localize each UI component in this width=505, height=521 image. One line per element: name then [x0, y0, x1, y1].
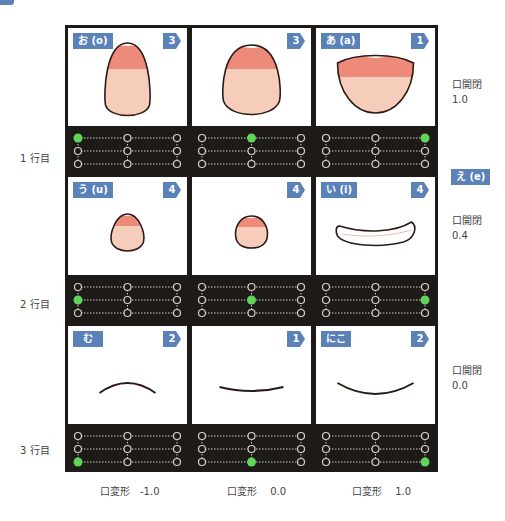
control-point[interactable] — [124, 135, 131, 142]
control-point[interactable] — [372, 310, 379, 317]
control-point[interactable] — [199, 459, 206, 466]
control-point[interactable] — [298, 433, 305, 440]
control-point[interactable] — [199, 148, 206, 155]
control-point[interactable] — [298, 310, 305, 317]
control-point[interactable] — [323, 284, 330, 291]
control-point[interactable] — [372, 161, 379, 168]
control-point[interactable] — [174, 161, 181, 168]
control-point[interactable] — [124, 459, 131, 466]
step-number-tag: 4 — [163, 182, 181, 198]
parameter-pad[interactable] — [316, 427, 435, 471]
control-point-active[interactable] — [74, 134, 83, 143]
control-point[interactable] — [174, 297, 181, 304]
control-strip-r3c2[interactable] — [192, 427, 311, 471]
control-point[interactable] — [248, 148, 255, 155]
control-point[interactable] — [199, 284, 206, 291]
control-point[interactable] — [124, 297, 131, 304]
control-point-active[interactable] — [421, 458, 430, 467]
control-point[interactable] — [323, 297, 330, 304]
control-point[interactable] — [372, 433, 379, 440]
control-point[interactable] — [298, 459, 305, 466]
parameter-pad[interactable] — [68, 129, 187, 173]
control-point[interactable] — [124, 148, 131, 155]
control-point[interactable] — [75, 433, 82, 440]
control-point[interactable] — [372, 148, 379, 155]
control-point[interactable] — [174, 433, 181, 440]
control-point[interactable] — [124, 284, 131, 291]
control-point[interactable] — [124, 446, 131, 453]
control-point[interactable] — [323, 446, 330, 453]
control-point[interactable] — [323, 161, 330, 168]
control-point[interactable] — [174, 284, 181, 291]
control-point[interactable] — [422, 433, 429, 440]
control-point[interactable] — [248, 161, 255, 168]
parameter-pad[interactable] — [316, 129, 435, 173]
parameter-pad[interactable] — [316, 278, 435, 322]
control-strip-r1c2[interactable] — [192, 129, 311, 173]
control-point[interactable] — [323, 310, 330, 317]
control-strip-r3c3[interactable] — [316, 427, 435, 471]
control-point[interactable] — [372, 459, 379, 466]
control-strip-r2c2[interactable] — [192, 278, 311, 322]
control-point[interactable] — [422, 161, 429, 168]
control-point[interactable] — [174, 446, 181, 453]
control-point[interactable] — [422, 446, 429, 453]
control-point[interactable] — [372, 135, 379, 142]
control-strip-r3c1[interactable] — [68, 427, 187, 471]
parameter-pad[interactable] — [192, 278, 311, 322]
control-point-active[interactable] — [74, 296, 83, 305]
control-point[interactable] — [298, 446, 305, 453]
control-point[interactable] — [199, 161, 206, 168]
control-point[interactable] — [372, 284, 379, 291]
parameter-pad[interactable] — [192, 427, 311, 471]
control-point[interactable] — [124, 161, 131, 168]
control-point[interactable] — [199, 433, 206, 440]
parameter-pad[interactable] — [68, 427, 187, 471]
control-point[interactable] — [124, 310, 131, 317]
parameter-pad[interactable] — [68, 278, 187, 322]
control-point[interactable] — [174, 310, 181, 317]
control-point[interactable] — [248, 284, 255, 291]
control-point[interactable] — [248, 446, 255, 453]
control-point[interactable] — [174, 135, 181, 142]
control-point[interactable] — [422, 310, 429, 317]
control-point-active[interactable] — [247, 458, 256, 467]
control-point[interactable] — [248, 433, 255, 440]
control-point[interactable] — [75, 310, 82, 317]
control-point[interactable] — [298, 135, 305, 142]
control-point[interactable] — [323, 459, 330, 466]
control-point[interactable] — [298, 284, 305, 291]
control-point[interactable] — [199, 310, 206, 317]
control-point[interactable] — [422, 148, 429, 155]
control-point[interactable] — [75, 284, 82, 291]
control-point[interactable] — [298, 297, 305, 304]
control-point[interactable] — [422, 284, 429, 291]
control-point[interactable] — [174, 459, 181, 466]
control-point[interactable] — [323, 433, 330, 440]
control-point[interactable] — [248, 310, 255, 317]
control-point[interactable] — [199, 446, 206, 453]
control-point[interactable] — [372, 446, 379, 453]
control-point[interactable] — [75, 161, 82, 168]
parameter-pad[interactable] — [192, 129, 311, 173]
control-point-active[interactable] — [74, 458, 83, 467]
control-point[interactable] — [174, 148, 181, 155]
control-point[interactable] — [323, 148, 330, 155]
control-point[interactable] — [372, 297, 379, 304]
control-point[interactable] — [298, 148, 305, 155]
control-point[interactable] — [75, 446, 82, 453]
control-point[interactable] — [298, 161, 305, 168]
control-point-active[interactable] — [247, 296, 256, 305]
control-point[interactable] — [124, 433, 131, 440]
control-point-active[interactable] — [421, 296, 430, 305]
control-strip-r2c3[interactable] — [316, 278, 435, 322]
control-strip-r1c1[interactable] — [68, 129, 187, 173]
control-point[interactable] — [323, 135, 330, 142]
control-strip-r1c3[interactable] — [316, 129, 435, 173]
control-point-active[interactable] — [421, 134, 430, 143]
control-strip-r2c1[interactable] — [68, 278, 187, 322]
control-point[interactable] — [75, 148, 82, 155]
control-point[interactable] — [199, 135, 206, 142]
control-point-active[interactable] — [247, 134, 256, 143]
control-point[interactable] — [199, 297, 206, 304]
